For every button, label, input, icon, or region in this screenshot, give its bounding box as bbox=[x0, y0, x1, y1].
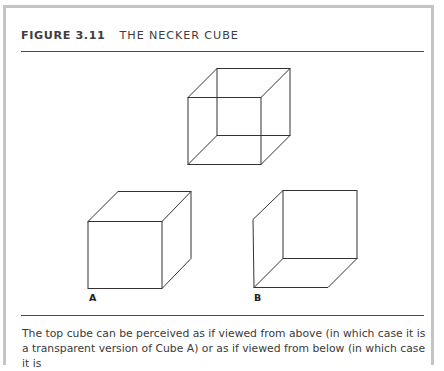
cube-a bbox=[88, 192, 191, 289]
cube-b bbox=[253, 191, 357, 288]
caption-rule bbox=[21, 315, 424, 316]
necker-cube-ambiguous bbox=[188, 69, 290, 165]
cube-b-label: B bbox=[254, 292, 261, 303]
figure-caption: The top cube can be perceived as if view… bbox=[22, 326, 432, 371]
cube-a-label: A bbox=[89, 292, 96, 303]
